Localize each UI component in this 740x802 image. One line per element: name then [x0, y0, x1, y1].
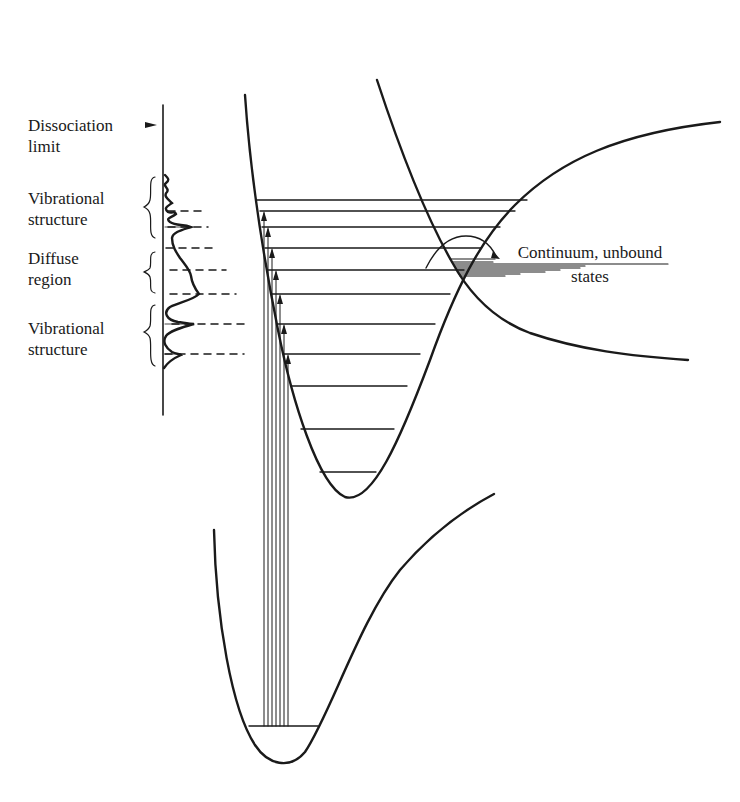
label-dissociation-limit: Dissociation limit	[28, 115, 113, 157]
label-diffuse-region: Diffuse region	[28, 248, 79, 290]
excited-bound-well-curve	[245, 95, 720, 498]
label-vibrational-structure-upper: Vibrational structure	[28, 188, 104, 230]
dissociation-arrow-icon	[145, 122, 157, 128]
label-vibrational-structure-lower: Vibrational structure	[28, 318, 104, 360]
ground-state-well-curve	[214, 494, 494, 763]
repulsive-state-curve	[377, 80, 688, 360]
spectrum-braces	[144, 177, 155, 366]
absorption-transitions	[264, 213, 288, 726]
absorption-spectrum-trace	[164, 175, 199, 368]
label-continuum-unbound-states: Continuum, unbound states	[515, 242, 665, 287]
arc-arrow-head-icon	[491, 251, 500, 259]
